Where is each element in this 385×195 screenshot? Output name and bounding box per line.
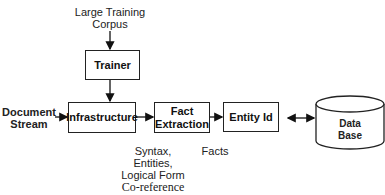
infrastructure-label: Infrastructure	[66, 111, 138, 124]
facts-annotation: Facts	[200, 145, 230, 157]
corpus-line-2: Corpus	[62, 18, 158, 30]
entity-id-label: Entity Id	[229, 111, 272, 124]
database-label: Data Base	[326, 118, 374, 142]
corpus-label: Large Training Corpus	[62, 6, 158, 30]
fact-extraction-line-2: Extraction	[155, 118, 209, 131]
stream-line-1: Document	[0, 106, 58, 118]
annotation-entities: Entities,	[118, 157, 188, 169]
corpus-line-1: Large Training	[62, 6, 158, 18]
stream-line-2: Stream	[0, 118, 58, 130]
infrastructure-box: Infrastructure	[68, 102, 136, 133]
infrastructure-output-annotation: Syntax, Entities, Logical Form Co-refere…	[118, 145, 188, 193]
arrows-layer	[0, 0, 385, 195]
database-line-2: Base	[326, 130, 374, 142]
trainer-label: Trainer	[94, 59, 131, 72]
fact-extraction-box: Fact Extraction	[154, 102, 210, 133]
trainer-box: Trainer	[85, 50, 140, 80]
fact-extraction-line-1: Fact	[171, 105, 194, 118]
annotation-syntax: Syntax,	[118, 145, 188, 157]
facts-label: Facts	[202, 145, 229, 157]
annotation-coreference: Co-reference	[118, 181, 188, 193]
entity-id-box: Entity Id	[223, 102, 279, 132]
document-stream-label: Document Stream	[0, 106, 58, 130]
database-line-1: Data	[326, 118, 374, 130]
